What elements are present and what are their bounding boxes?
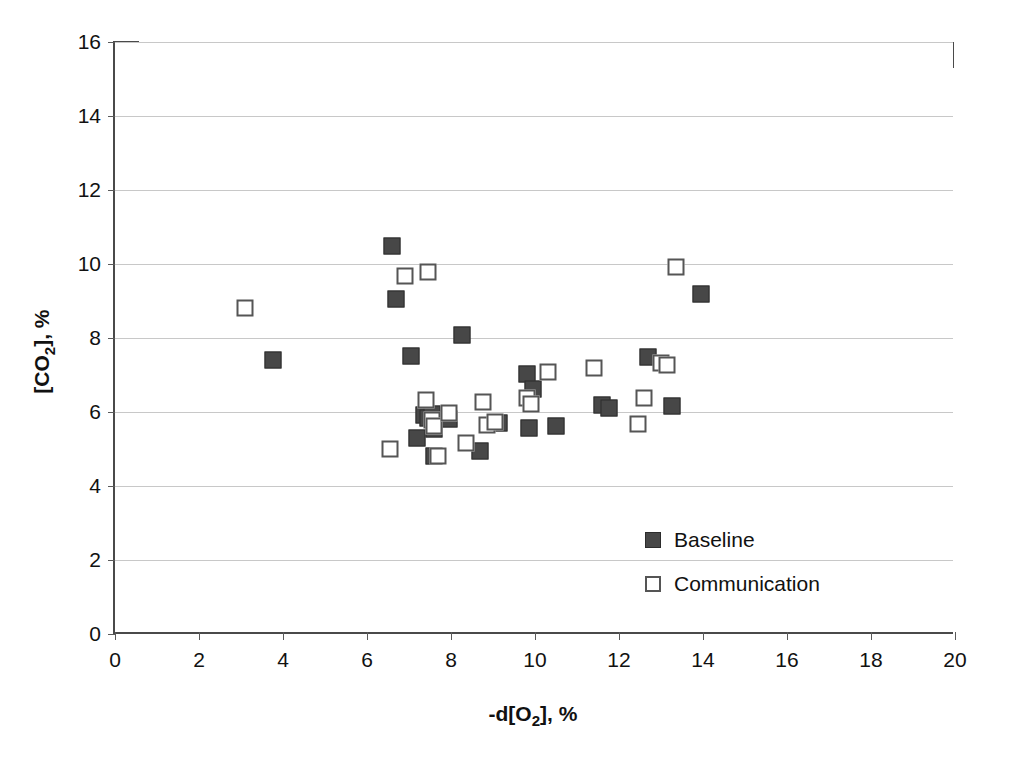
gridline [115, 190, 953, 191]
y-tick-mark [108, 634, 115, 635]
data-point-communication [457, 435, 474, 452]
data-point-communication [539, 364, 556, 381]
legend-label: Communication [674, 572, 820, 596]
gridline [115, 116, 953, 117]
data-point-communication [430, 447, 447, 464]
data-point-communication [440, 404, 457, 421]
gridline [115, 486, 953, 487]
y-tick-label: 10 [78, 252, 101, 276]
x-tick-label: 20 [943, 648, 966, 672]
y-axis-title: [CO2], % [30, 252, 57, 452]
x-tick-mark [619, 632, 620, 640]
data-point-communication [667, 258, 684, 275]
data-point-baseline [600, 399, 617, 416]
data-point-communication [659, 356, 676, 373]
gridline [115, 560, 953, 561]
x-tick-label: 4 [277, 648, 289, 672]
data-point-baseline [409, 429, 426, 446]
x-tick-label: 6 [361, 648, 373, 672]
data-point-baseline [692, 286, 709, 303]
x-tick-mark [451, 632, 452, 640]
data-point-baseline [264, 352, 281, 369]
x-tick-label: 16 [775, 648, 798, 672]
scatter-chart-figure: 0246810121416 02468101214161820 [CO2], %… [0, 0, 1010, 762]
data-point-baseline [384, 238, 401, 255]
y-tick-mark [108, 42, 115, 43]
data-point-communication [419, 264, 436, 281]
data-point-baseline [663, 398, 680, 415]
x-tick-label: 8 [445, 648, 457, 672]
gridline [115, 264, 953, 265]
x-tick-mark [535, 632, 536, 640]
legend-swatch-open-square-icon [645, 576, 661, 592]
legend-swatch-filled-square-icon [645, 532, 661, 548]
y-tick-label: 0 [89, 622, 101, 646]
y-tick-label: 16 [78, 30, 101, 54]
data-point-communication [237, 299, 254, 316]
data-point-communication [585, 360, 602, 377]
x-tick-mark [787, 632, 788, 640]
x-tick-label: 0 [109, 648, 121, 672]
plot-area: 0246810121416 02468101214161820 [113, 42, 953, 634]
y-tick-label: 6 [89, 400, 101, 424]
x-tick-mark [871, 632, 872, 640]
y-tick-label: 8 [89, 326, 101, 350]
x-tick-label: 14 [691, 648, 714, 672]
x-tick-mark [199, 632, 200, 640]
data-point-baseline [548, 418, 565, 435]
data-point-communication [382, 441, 399, 458]
y-tick-mark [108, 486, 115, 487]
y-tick-mark [108, 264, 115, 265]
data-point-baseline [453, 327, 470, 344]
y-tick-mark [108, 190, 115, 191]
gridline [115, 42, 953, 43]
data-point-communication [487, 414, 504, 431]
data-point-baseline [403, 347, 420, 364]
data-point-communication [417, 392, 434, 409]
data-point-communication [474, 393, 491, 410]
data-point-communication [396, 268, 413, 285]
y-tick-label: 4 [89, 474, 101, 498]
y-tick-mark [108, 560, 115, 561]
x-tick-mark [955, 632, 956, 640]
x-tick-label: 2 [193, 648, 205, 672]
y-tick-mark [108, 338, 115, 339]
x-tick-mark [703, 632, 704, 640]
x-tick-label: 10 [523, 648, 546, 672]
y-tick-label: 14 [78, 104, 101, 128]
data-point-communication [636, 389, 653, 406]
data-point-communication [522, 395, 539, 412]
gridline [115, 338, 953, 339]
legend-label: Baseline [674, 528, 755, 552]
legend-item-baseline: Baseline [645, 518, 820, 562]
y-tick-mark [108, 116, 115, 117]
data-point-baseline [388, 291, 405, 308]
chart-legend: Baseline Communication [645, 518, 820, 606]
x-tick-mark [283, 632, 284, 640]
x-tick-mark [115, 632, 116, 640]
x-axis-title: -d[O2], % [113, 702, 953, 729]
x-tick-label: 12 [607, 648, 630, 672]
y-tick-mark [108, 412, 115, 413]
x-tick-mark [367, 632, 368, 640]
data-point-baseline [472, 442, 489, 459]
y-tick-label: 2 [89, 548, 101, 572]
data-point-communication [629, 416, 646, 433]
x-tick-label: 18 [859, 648, 882, 672]
y-tick-label: 12 [78, 178, 101, 202]
legend-item-communication: Communication [645, 562, 820, 606]
data-point-baseline [520, 419, 537, 436]
